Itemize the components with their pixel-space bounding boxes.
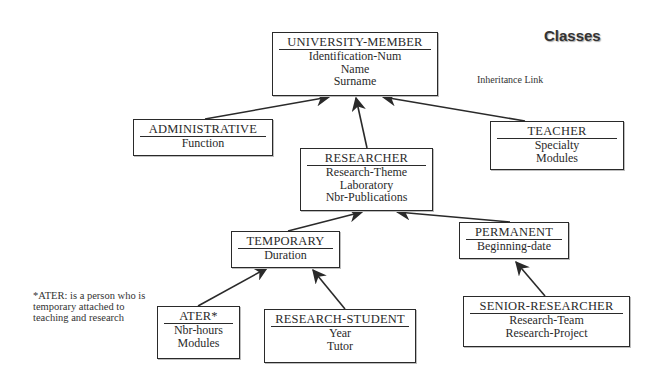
class-attribute: Specialty — [491, 139, 623, 152]
class-attribute: Beginning-date — [460, 240, 568, 253]
link-teacher-to-university-member — [383, 97, 525, 121]
class-administrative: ADMINISTRATIVE Function — [133, 119, 273, 156]
class-temporary: TEMPORARY Duration — [231, 231, 340, 268]
class-research-student: RESEARCH-STUDENT Year Tutor — [264, 309, 416, 363]
class-name: ADMINISTRATIVE — [140, 122, 266, 137]
class-university-member: UNIVERSITY-MEMBER Identification-Num Nam… — [272, 32, 438, 96]
class-attribute: Function — [134, 137, 272, 150]
class-senior-researcher: SENIOR-RESEARCHER Research-Team Research… — [463, 296, 630, 347]
class-attribute: Nbr-Publications — [301, 191, 432, 204]
class-name: UNIVERSITY-MEMBER — [279, 35, 431, 50]
class-attribute: Surname — [273, 75, 437, 88]
class-name: TEMPORARY — [238, 234, 333, 249]
link-ater-to-temporary — [198, 268, 267, 306]
diagram-title: Classes — [544, 27, 601, 44]
link-senior-researcher-to-permanent — [516, 262, 545, 296]
class-name: RESEARCH-STUDENT — [271, 312, 409, 327]
class-researcher: RESEARCHER Research-Theme Laboratory Nbr… — [300, 148, 433, 211]
link-temporary-to-researcher — [288, 212, 362, 231]
class-attribute: Research-Project — [464, 327, 629, 340]
legend-label: Inheritance Link — [477, 74, 543, 85]
class-attribute: Duration — [232, 249, 339, 262]
link-permanent-to-researcher — [397, 212, 510, 222]
class-name: SENIOR-RESEARCHER — [470, 299, 623, 314]
class-name: RESEARCHER — [307, 151, 426, 166]
class-diagram: Classes Inheritance Link *ATER: is a per… — [0, 0, 649, 375]
link-administrative-to-university-member — [205, 97, 329, 119]
class-permanent: PERMANENT Beginning-date — [459, 222, 569, 259]
class-attribute: Modules — [491, 152, 623, 165]
class-attribute: Modules — [158, 337, 239, 350]
class-attribute: Identification-Num — [273, 50, 437, 63]
class-attribute: Year — [265, 327, 415, 340]
class-ater: ATER* Nbr-hours Modules — [157, 306, 240, 359]
class-teacher: TEACHER Specialty Modules — [490, 121, 624, 170]
class-attribute: Research-Team — [464, 314, 629, 327]
link-research-student-to-temporary — [313, 270, 345, 309]
class-attribute: Tutor — [265, 340, 415, 353]
class-name: ATER* — [164, 309, 233, 324]
class-name: TEACHER — [497, 124, 617, 139]
link-researcher-to-university-member — [356, 98, 367, 148]
footnote: *ATER: is a person who is temporary atta… — [33, 290, 153, 323]
class-attribute: Research-Theme — [301, 166, 432, 179]
class-attribute: Nbr-hours — [158, 324, 239, 337]
class-name: PERMANENT — [466, 225, 562, 240]
